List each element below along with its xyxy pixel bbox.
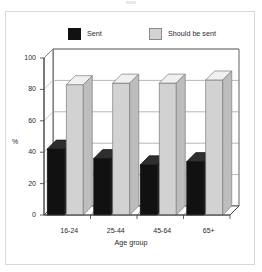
- plot-area: 020406080100 16-2425-4445-6465+ % Age gr…: [0, 0, 262, 272]
- x-axis-label: Age group: [0, 239, 262, 247]
- x-tick-label: 65+: [187, 227, 231, 235]
- x-tick-label: 16-24: [47, 227, 91, 235]
- chart-figure: Sent Should be sent 020406080100 16-2425…: [0, 0, 262, 272]
- x-tick-label: 45-64: [140, 227, 184, 235]
- y-tick-label: 80: [14, 85, 36, 93]
- y-tick-label: 0: [14, 211, 36, 219]
- y-axis-label: %: [12, 138, 18, 146]
- y-tick-label: 100: [14, 54, 36, 62]
- y-tick-label: 20: [14, 180, 36, 188]
- y-tick-label: 60: [14, 117, 36, 125]
- y-tick-label: 40: [14, 148, 36, 156]
- x-tick-label: 25-44: [94, 227, 138, 235]
